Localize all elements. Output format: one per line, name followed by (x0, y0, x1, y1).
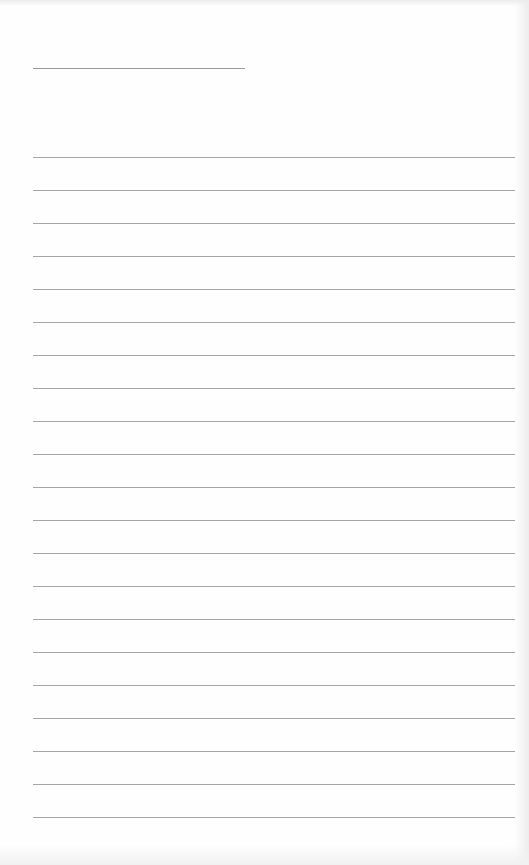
bottom-edge-shadow (0, 845, 529, 865)
ruled-line (33, 190, 515, 191)
ruled-line (33, 586, 515, 587)
right-edge-shadow (515, 0, 529, 865)
ruled-line (33, 289, 515, 290)
ruled-line (33, 157, 515, 158)
ruled-line (33, 718, 515, 719)
ruled-line (33, 223, 515, 224)
top-edge-shadow (0, 0, 529, 6)
ruled-line (33, 685, 515, 686)
ruled-line (33, 355, 515, 356)
ruled-line (33, 784, 515, 785)
ruled-line (33, 553, 515, 554)
ruled-line (33, 454, 515, 455)
ruled-line (33, 256, 515, 257)
ruled-line (33, 388, 515, 389)
ruled-line (33, 619, 515, 620)
ruled-line (33, 322, 515, 323)
ruled-line (33, 751, 515, 752)
ruled-line (33, 421, 515, 422)
ruled-line (33, 652, 515, 653)
header-line (33, 68, 245, 69)
ruled-line (33, 520, 515, 521)
ruled-line (33, 487, 515, 488)
lined-paper-page (0, 0, 529, 865)
ruled-line (33, 817, 515, 818)
